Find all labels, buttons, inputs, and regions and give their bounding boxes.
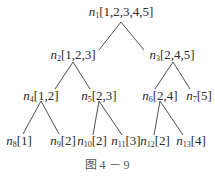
node-set: [1] — [17, 133, 32, 148]
tree-node-n12: n12[2] — [140, 134, 170, 152]
edge-n1-n3 — [121, 22, 144, 50]
node-index: 13 — [183, 140, 191, 149]
edge-n2-n5 — [73, 62, 90, 89]
tree-node-n13: n13[4] — [176, 134, 206, 152]
edge-n1-n2 — [99, 22, 121, 50]
node-set: [2,3] — [92, 88, 117, 103]
node-index: 12 — [147, 140, 155, 149]
tree-node-n6: n6[2,4] — [142, 89, 177, 107]
tree-node-n7: n7[5] — [186, 89, 212, 107]
tree-node-n8: n8[1] — [6, 134, 32, 152]
tree-node-n3: n3[2,4,5] — [149, 48, 194, 66]
tree-node-n9: n9[2] — [50, 134, 76, 152]
tree-node-n10: n10[2] — [77, 134, 107, 152]
tree-node-n5: n5[2,3] — [81, 89, 116, 107]
figure-caption: 图 4 － 9 — [85, 155, 130, 173]
tree-node-n1: n1[1,2,3,4,5] — [89, 5, 154, 23]
tree-node-n11: n11[3] — [111, 134, 140, 152]
edge-n3-n6 — [155, 62, 173, 89]
node-set: [2] — [61, 133, 76, 148]
node-set: [1,2] — [34, 88, 59, 103]
node-set: [3] — [126, 133, 141, 148]
node-set: [2,4,5] — [160, 47, 195, 62]
node-set: [1,2,3] — [61, 47, 96, 62]
node-set: [2] — [92, 133, 107, 148]
node-set: [1,2,3,4,5] — [99, 4, 153, 19]
node-index: 10 — [84, 140, 92, 149]
node-set: [2] — [155, 133, 170, 148]
node-set: [4] — [191, 133, 206, 148]
edge-n2-n4 — [55, 62, 73, 89]
edge-n3-n7 — [173, 62, 190, 89]
tree-node-n4: n4[1,2] — [23, 89, 58, 107]
tree-node-n2: n2[1,2,3] — [50, 48, 95, 66]
node-set: [5] — [197, 88, 212, 103]
node-set: [2,4] — [153, 88, 178, 103]
